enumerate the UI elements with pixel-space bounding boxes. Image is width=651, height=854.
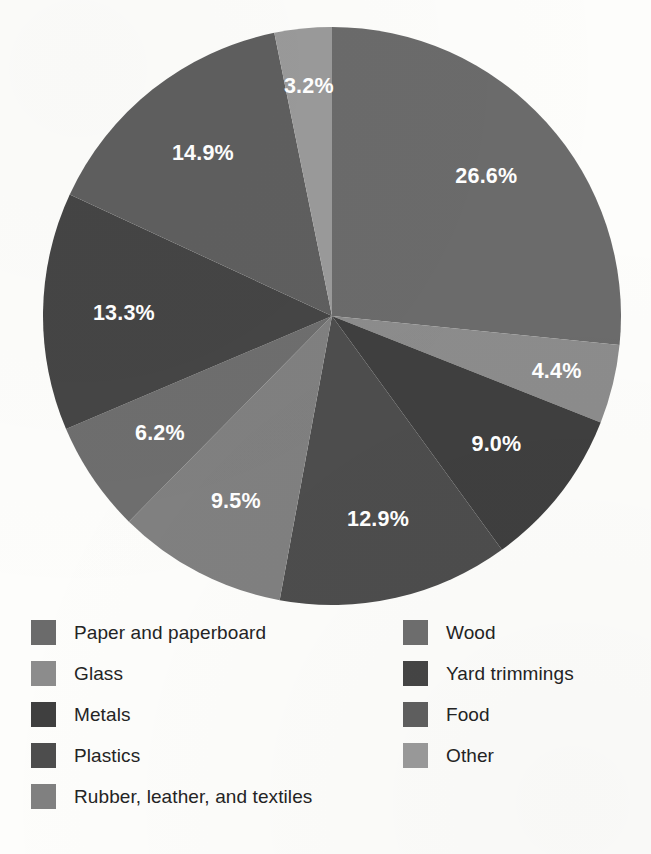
legend-column-left: Paper and paperboardGlassMetalsPlasticsR…	[31, 612, 391, 817]
legend-color-swatch	[403, 661, 428, 686]
pie-chart-svg: 26.6%4.4%9.0%12.9%9.5%6.2%13.3%14.9%3.2%	[0, 0, 651, 620]
legend-column-right: WoodYard trimmingsFoodOther	[403, 612, 651, 776]
legend-item-label: Other	[446, 745, 494, 767]
legend-item-label: Food	[446, 704, 490, 726]
pie-slice-data-label: 12.9%	[347, 507, 409, 531]
legend-item[interactable]: Plastics	[31, 735, 391, 776]
legend-item[interactable]: Yard trimmings	[403, 653, 651, 694]
pie-slice-data-label: 3.2%	[284, 74, 334, 98]
legend-item-label: Wood	[446, 622, 496, 644]
chart-legend: Paper and paperboardGlassMetalsPlasticsR…	[0, 612, 651, 854]
pie-chart-figure: 26.6%4.4%9.0%12.9%9.5%6.2%13.3%14.9%3.2%…	[0, 0, 651, 854]
pie-slice-data-label: 26.6%	[455, 164, 517, 188]
legend-item-label: Yard trimmings	[446, 663, 574, 685]
legend-color-swatch	[31, 620, 56, 645]
legend-item[interactable]: Other	[403, 735, 651, 776]
pie-slice-data-label: 9.0%	[471, 432, 521, 456]
legend-color-swatch	[31, 784, 56, 809]
pie-chart-plot-area: 26.6%4.4%9.0%12.9%9.5%6.2%13.3%14.9%3.2%	[0, 0, 651, 620]
legend-item-label: Paper and paperboard	[74, 622, 266, 644]
legend-item-label: Metals	[74, 704, 131, 726]
pie-slice-data-label: 4.4%	[532, 359, 582, 383]
pie-slice-data-label: 13.3%	[93, 301, 155, 325]
legend-item[interactable]: Wood	[403, 612, 651, 653]
legend-item-label: Plastics	[74, 745, 140, 767]
legend-item[interactable]: Food	[403, 694, 651, 735]
legend-color-swatch	[31, 743, 56, 768]
legend-item-label: Glass	[74, 663, 123, 685]
legend-color-swatch	[403, 702, 428, 727]
legend-color-swatch	[31, 661, 56, 686]
pie-slice-data-label: 6.2%	[135, 421, 185, 445]
legend-color-swatch	[31, 702, 56, 727]
legend-color-swatch	[403, 620, 428, 645]
legend-item[interactable]: Glass	[31, 653, 391, 694]
legend-item[interactable]: Metals	[31, 694, 391, 735]
legend-item[interactable]: Paper and paperboard	[31, 612, 391, 653]
pie-slice-data-label: 9.5%	[211, 489, 261, 513]
legend-color-swatch	[403, 743, 428, 768]
legend-item[interactable]: Rubber, leather, and textiles	[31, 776, 391, 817]
legend-item-label: Rubber, leather, and textiles	[74, 786, 312, 808]
pie-slice-data-label: 14.9%	[172, 141, 234, 165]
